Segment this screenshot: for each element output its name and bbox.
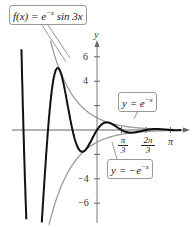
f-curve bbox=[42, 68, 181, 222]
denominator: 3 bbox=[118, 146, 128, 155]
y-tick-label-6: 6 bbox=[83, 52, 88, 62]
denominator: 3 bbox=[141, 146, 155, 155]
y-axis-label: y bbox=[94, 30, 98, 40]
lower-label-text: y = −e bbox=[111, 164, 141, 176]
f-label-tail: sin 3x bbox=[54, 10, 83, 22]
lower-label-exp: −x bbox=[141, 163, 149, 171]
f-label-leader bbox=[40, 22, 66, 62]
f-label-leader-2 bbox=[46, 22, 70, 58]
lower-envelope-label: y = −e−x bbox=[107, 159, 153, 179]
y-tick-label-m4: −4 bbox=[78, 174, 89, 184]
y-tick-label-m6: −6 bbox=[78, 198, 89, 208]
upper-label-exp: −x bbox=[145, 96, 153, 104]
f-label-text: f(x) = e bbox=[13, 10, 46, 22]
y-tick-label-4: 4 bbox=[83, 76, 88, 86]
x-tick-label-pi: π bbox=[168, 137, 173, 147]
lower-label-leader bbox=[112, 142, 117, 159]
f-function-label: f(x) = e−x sin 3x bbox=[9, 5, 87, 25]
chart: y 6 4 −4 −6 π 3 2π 3 π f(x) = e−x sin 3x… bbox=[0, 0, 195, 227]
y-axis-arrow bbox=[95, 40, 100, 47]
x-tick-label-2pi-over-3: 2π 3 bbox=[141, 136, 155, 155]
f-label-exp: −x bbox=[46, 9, 54, 17]
upper-envelope-label: y = e−x bbox=[118, 92, 157, 112]
x-tick-label-pi-over-3: π 3 bbox=[118, 136, 128, 155]
f-curve bbox=[21, 49, 26, 219]
x-axis-arrow bbox=[183, 128, 190, 133]
upper-label-text: y = e bbox=[122, 97, 145, 109]
